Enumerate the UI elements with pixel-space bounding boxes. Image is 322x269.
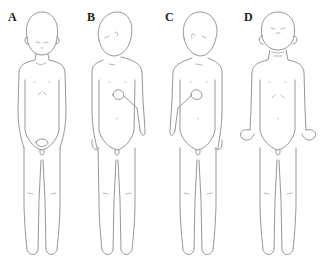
panel-c: C [158,0,238,269]
panel-b: B [79,0,159,269]
panel-a: A [0,0,80,269]
child-figure-a-drawing [0,0,80,269]
child-figure-b-drawing [79,0,159,269]
panel-d: D [236,0,316,269]
child-figure-d-drawing [236,0,322,269]
child-figure-c-drawing [158,0,238,269]
